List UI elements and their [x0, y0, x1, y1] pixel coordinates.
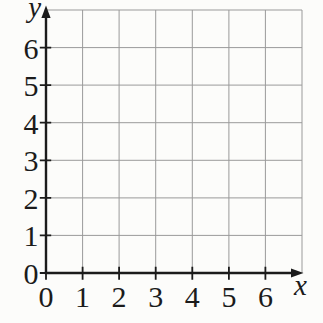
x-tick-label: 0	[39, 280, 54, 313]
coordinate-grid-figure: 6 5 4 3 2 1 0 0 1 2 3 4 5 6 y x	[0, 0, 323, 323]
y-tick-label: 3	[24, 144, 39, 177]
x-tick-label: 3	[148, 280, 163, 313]
x-tick-label: 4	[185, 280, 200, 313]
y-tick-label: 1	[24, 219, 39, 252]
x-axis-label: x	[293, 269, 307, 301]
x-tick-label: 1	[75, 280, 90, 313]
y-tick-label: 0	[24, 257, 39, 290]
coordinate-plane-svg: 6 5 4 3 2 1 0 0 1 2 3 4 5 6 y x	[0, 0, 323, 323]
y-tick-label: 2	[24, 182, 39, 215]
x-tick-label: 2	[112, 280, 127, 313]
x-tick-label: 6	[258, 280, 273, 313]
x-tick-label: 5	[221, 280, 236, 313]
y-tick-label: 4	[24, 107, 39, 140]
y-axis-label: y	[25, 0, 41, 23]
y-tick-label: 5	[24, 69, 39, 102]
y-tick-label: 6	[24, 32, 39, 65]
